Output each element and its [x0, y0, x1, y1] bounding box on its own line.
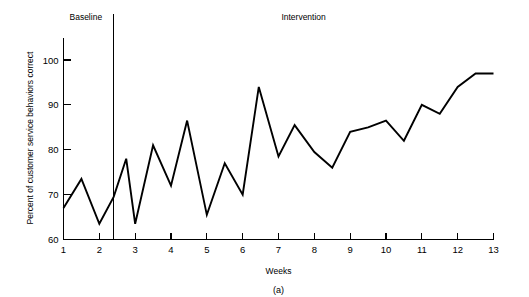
- line-chart-figure: 60708090100 12345678910111213 Baseline I…: [0, 0, 529, 297]
- x-tick-label: 8: [312, 244, 317, 255]
- baseline-phase-label: Baseline: [70, 12, 103, 22]
- chart-container: 60708090100 12345678910111213 Baseline I…: [0, 0, 529, 297]
- y-tick-label: 90: [48, 99, 59, 110]
- intervention-phase-label: Intervention: [281, 12, 326, 22]
- x-tick-label: 4: [168, 244, 173, 255]
- x-tick-label: 2: [97, 244, 102, 255]
- x-axis-ticks: 12345678910111213: [61, 233, 499, 255]
- y-tick-label: 80: [48, 144, 59, 155]
- y-tick-label: 60: [48, 234, 59, 245]
- data-series-line: [64, 73, 494, 223]
- figure-caption: (a): [273, 285, 284, 295]
- x-tick-label: 3: [133, 244, 138, 255]
- x-tick-label: 13: [488, 244, 499, 255]
- y-tick-label: 100: [43, 55, 59, 66]
- y-axis-ticks: 60708090100: [43, 55, 71, 246]
- x-tick-label: 9: [348, 244, 353, 255]
- y-axis-title: Percent of customer service behaviors co…: [25, 51, 35, 225]
- x-tick-label: 5: [204, 244, 209, 255]
- x-tick-label: 12: [452, 244, 463, 255]
- y-tick-label: 70: [48, 189, 59, 200]
- x-tick-label: 1: [61, 244, 66, 255]
- x-tick-label: 10: [381, 244, 392, 255]
- x-tick-label: 11: [417, 244, 427, 255]
- x-tick-label: 6: [240, 244, 245, 255]
- x-tick-label: 7: [276, 244, 281, 255]
- x-axis-title: Weeks: [266, 266, 292, 276]
